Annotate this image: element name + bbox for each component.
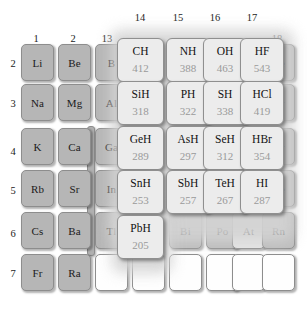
bond-energy-value: 287	[254, 195, 271, 206]
element-cell-rb[interactable]: Rb	[21, 170, 54, 207]
element-cell-mg[interactable]: Mg	[58, 84, 91, 121]
element-cell-li[interactable]: Li	[21, 44, 54, 81]
bond-energy-value: 267	[217, 195, 234, 206]
bond-energy-cell-sih[interactable]: SiH318	[117, 81, 164, 125]
period-header-4: 4	[6, 146, 20, 157]
element-cell-sr[interactable]: Sr	[58, 170, 91, 207]
bond-formula-label: HBr	[252, 134, 272, 146]
element-cell-fr[interactable]: Fr	[21, 254, 54, 291]
bond-energy-value: 354	[254, 151, 271, 162]
bond-energy-cell-geh[interactable]: GeH289	[117, 126, 164, 170]
element-cell-empty[interactable]	[262, 254, 295, 291]
bond-formula-label: HI	[256, 178, 268, 190]
period-header-6: 6	[6, 228, 20, 239]
bond-energy-value: 412	[132, 63, 149, 74]
group-header-17: 17	[235, 12, 269, 23]
element-cell-be[interactable]: Be	[58, 44, 91, 81]
group-header-16: 16	[198, 12, 232, 23]
bond-energy-value: 463	[217, 63, 234, 74]
element-cell-empty[interactable]	[232, 254, 265, 291]
bond-energy-value: 297	[180, 151, 197, 162]
group-header-2: 2	[56, 33, 90, 44]
bond-energy-value: 289	[132, 151, 149, 162]
bond-energy-value: 388	[180, 63, 197, 74]
bond-formula-label: TeH	[215, 178, 235, 190]
bond-formula-label: NH	[180, 46, 197, 58]
bond-formula-label: PbH	[130, 223, 150, 235]
bond-energy-value: 205	[132, 240, 149, 251]
periodic-table-figure: 12131415161718 234567 LiBeBNeNaMgAlArKCa…	[0, 0, 307, 316]
element-cell-ra[interactable]: Ra	[58, 254, 91, 291]
bond-energy-value: 322	[180, 106, 197, 117]
bond-formula-label: SH	[218, 89, 233, 101]
bond-formula-label: CH	[133, 46, 149, 58]
bond-energy-cell-snh[interactable]: SnH253	[117, 170, 164, 214]
bond-formula-label: PH	[181, 89, 196, 101]
group-header-1: 1	[19, 33, 53, 44]
bond-energy-cell-hcl[interactable]: HCl419	[240, 81, 284, 125]
bond-energy-cell-hi[interactable]: HI287	[240, 170, 284, 214]
bond-formula-label: OH	[217, 46, 234, 58]
bond-energy-value: 253	[132, 195, 149, 206]
bond-energy-value: 318	[132, 106, 149, 117]
period-header-2: 2	[6, 58, 20, 69]
group-header-15: 15	[161, 12, 195, 23]
bond-formula-label: SiH	[132, 89, 150, 101]
bond-energy-cell-ch[interactable]: CH412	[117, 38, 164, 82]
period-header-7: 7	[6, 268, 20, 279]
bond-energy-cell-hbr[interactable]: HBr354	[240, 126, 284, 170]
bond-energy-value: 543	[254, 63, 271, 74]
period-header-5: 5	[6, 185, 20, 196]
element-cell-ca[interactable]: Ca	[58, 128, 91, 165]
bond-formula-label: SbH	[178, 178, 198, 190]
bond-energy-value: 338	[217, 106, 234, 117]
bond-energy-cell-pbh[interactable]: PbH205	[117, 215, 164, 259]
element-cell-empty[interactable]	[169, 254, 202, 291]
bond-formula-label: SeH	[215, 134, 235, 146]
bond-energy-value: 257	[180, 195, 197, 206]
bond-formula-label: SnH	[130, 178, 150, 190]
element-cell-ba[interactable]: Ba	[58, 212, 91, 249]
bond-formula-label: GeH	[130, 134, 152, 146]
element-cell-cs[interactable]: Cs	[21, 212, 54, 249]
element-cell-k[interactable]: K	[21, 128, 54, 165]
bond-energy-cell-hf[interactable]: HF543	[240, 38, 284, 82]
group-header-14: 14	[123, 12, 157, 23]
bond-formula-label: HCl	[252, 89, 271, 101]
bond-formula-label: AsH	[177, 134, 198, 146]
bond-formula-label: HF	[255, 46, 270, 58]
period-header-3: 3	[6, 98, 20, 109]
bond-energy-value: 419	[254, 106, 271, 117]
bond-energy-value: 312	[217, 151, 234, 162]
element-cell-na[interactable]: Na	[21, 84, 54, 121]
